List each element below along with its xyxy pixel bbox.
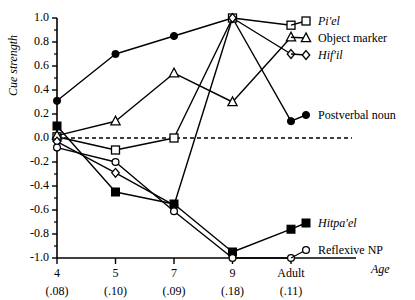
x-tick-label-age: 4	[29, 266, 85, 281]
data-point	[53, 97, 60, 104]
filled-circle-marker	[302, 111, 309, 118]
x-tick-label-age: Adult	[263, 266, 319, 281]
filled-square-marker	[112, 188, 120, 196]
open-diamond-marker	[302, 51, 309, 60]
data-point	[111, 116, 120, 125]
x-tick-label-proportion: (.11)	[263, 284, 319, 299]
data-point	[229, 255, 236, 262]
legend-label-object-marker: Object marker	[318, 31, 387, 46]
legend-marker	[302, 17, 310, 25]
y-tick-label: -0.2	[15, 154, 49, 169]
cue-strength-line-chart: Cue strength Age 1.00.80.60.40.20.0-0.2-…	[0, 0, 415, 300]
open-circle-marker	[54, 144, 61, 151]
data-point	[169, 68, 178, 77]
legend-label-postverbal-noun: Postverbal noun	[318, 108, 396, 123]
legend-marker	[302, 51, 309, 60]
open-diamond-marker	[112, 168, 119, 177]
legend-marker	[303, 247, 310, 254]
open-triangle-marker	[286, 32, 295, 41]
x-tick-label-proportion: (.18)	[205, 284, 261, 299]
x-tick-label-age: 5	[88, 266, 144, 281]
data-point	[170, 32, 177, 39]
y-tick-label: 0.0	[15, 130, 49, 145]
open-circle-marker	[112, 159, 119, 166]
data-point	[171, 208, 178, 215]
y-tick-label: -0.8	[15, 226, 49, 241]
y-tick-label: 0.4	[15, 82, 49, 97]
data-point	[112, 50, 119, 57]
x-tick-label-proportion: (.09)	[146, 284, 202, 299]
data-point	[170, 134, 178, 142]
y-tick-label: 0.2	[15, 106, 49, 121]
open-triangle-marker	[169, 68, 178, 77]
y-tick-label: -1.0	[15, 250, 49, 265]
legend-marker	[302, 219, 310, 227]
open-square-marker	[302, 17, 310, 25]
filled-circle-marker	[53, 97, 60, 104]
x-tick-label-proportion: (.08)	[29, 284, 85, 299]
open-circle-marker	[303, 247, 310, 254]
y-tick-label: -0.6	[15, 202, 49, 217]
data-point	[54, 144, 61, 151]
series-line	[57, 37, 291, 135]
data-point	[112, 146, 120, 154]
data-point	[286, 32, 295, 41]
open-circle-marker	[171, 208, 178, 215]
legend-marker	[302, 111, 309, 118]
data-point	[112, 168, 119, 177]
y-tick-label: 1.0	[15, 10, 49, 25]
data-point	[170, 200, 178, 208]
open-square-marker	[170, 134, 178, 142]
y-tick-label: 0.8	[15, 34, 49, 49]
filled-circle-marker	[170, 32, 177, 39]
series-hif-il	[53, 14, 294, 210]
filled-circle-marker	[112, 50, 119, 57]
x-tick-label-age: 9	[205, 266, 261, 281]
data-point	[112, 159, 119, 166]
series-object-marker	[52, 32, 295, 139]
open-square-marker	[112, 146, 120, 154]
open-triangle-marker	[111, 116, 120, 125]
x-tick-label-proportion: (.10)	[88, 284, 144, 299]
legend-label-reflexive-np: Reflexive NP	[318, 243, 383, 258]
y-tick-label: 0.6	[15, 58, 49, 73]
legend-label-pi-el: Pi'el	[318, 14, 340, 29]
filled-square-marker	[53, 122, 61, 130]
y-tick-label: -0.4	[15, 178, 49, 193]
filled-square-marker	[302, 219, 310, 227]
legend-label-hif-il: Hif'il	[318, 48, 343, 63]
legend-label-hitpa-el: Hitpa'el	[318, 216, 357, 231]
data-point	[112, 188, 120, 196]
x-tick-label-age: 7	[146, 266, 202, 281]
open-circle-marker	[229, 255, 236, 262]
series-line	[57, 18, 291, 205]
data-point	[53, 122, 61, 130]
filled-square-marker	[170, 200, 178, 208]
